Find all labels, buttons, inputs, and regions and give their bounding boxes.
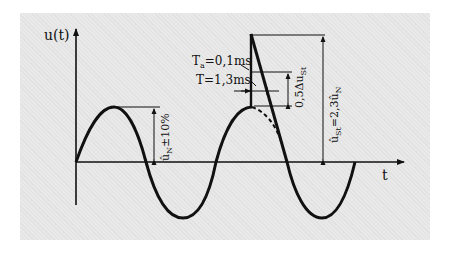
- x-axis-label: t: [382, 167, 388, 183]
- rise-time-label: Ta=0,1ms: [192, 54, 251, 70]
- half-amplitude-label: 0,5ΔuSt: [293, 67, 308, 108]
- half-time-label: T=1,3ms: [196, 73, 251, 87]
- surge-decay-edge: [251, 34, 287, 162]
- nominal-peak-label: ûN±10%: [159, 113, 174, 161]
- sine-wave-after-surge: [287, 162, 355, 218]
- y-axis-label: u(t): [44, 27, 70, 43]
- surge-peak-label: ûSt=2,3ûN: [328, 86, 343, 143]
